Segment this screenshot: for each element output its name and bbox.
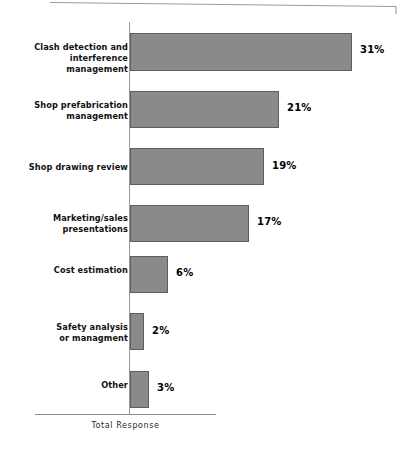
category-label: Cost estimation <box>8 265 128 276</box>
category-label: Shop drawing review <box>8 162 128 173</box>
category-label: Marketing/sales presentations <box>8 213 128 235</box>
category-label-line1: Clash detection and <box>8 42 128 53</box>
bar-value-label: 2% <box>152 325 169 336</box>
category-label: Other <box>8 380 128 391</box>
bar[interactable] <box>130 313 144 350</box>
category-label-line1: Shop drawing review <box>8 162 128 173</box>
category-label: Safety analysis or managment <box>8 322 128 344</box>
category-label-line1: Marketing/sales <box>8 213 128 224</box>
category-label-line1: Shop prefabrication <box>8 100 128 111</box>
category-label-line2: management <box>8 111 128 122</box>
category-label-line1: Other <box>8 380 128 391</box>
bar[interactable] <box>130 148 264 185</box>
bar-value-label: 19% <box>272 160 297 171</box>
bar-value-label: 17% <box>257 216 282 227</box>
category-axis-line <box>35 414 216 415</box>
bar[interactable] <box>130 371 149 408</box>
bar[interactable] <box>130 205 249 242</box>
bar-value-label: 6% <box>176 267 193 278</box>
bar-value-label: 31% <box>360 44 385 55</box>
category-label-line2: or managment <box>8 333 128 344</box>
category-label: Shop prefabrication management <box>8 100 128 122</box>
bar[interactable] <box>130 33 352 71</box>
category-label-line2: interference management <box>8 53 128 75</box>
category-label-line2: presentations <box>8 224 128 235</box>
bar[interactable] <box>130 91 279 128</box>
bar[interactable] <box>130 256 168 293</box>
horizontal-bar-chart: Clash detection and interference managem… <box>0 0 413 455</box>
category-label: Clash detection and interference managem… <box>8 42 128 75</box>
axis-title: Total Response <box>35 421 216 430</box>
category-label-line1: Safety analysis <box>8 322 128 333</box>
category-label-line1: Cost estimation <box>8 265 128 276</box>
bar-value-label: 21% <box>287 102 312 113</box>
bar-value-label: 3% <box>157 382 174 393</box>
